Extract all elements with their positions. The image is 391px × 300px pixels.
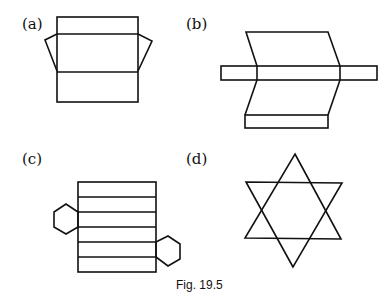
top-face <box>246 32 340 66</box>
figure-canvas: (a) (b) (c) (d) Fig. 19.5 <box>0 0 391 300</box>
panel-a: (a) <box>22 15 152 102</box>
left-flap <box>45 34 57 71</box>
panel-c: (c) <box>22 150 180 272</box>
panel-b: (b) <box>186 15 377 128</box>
right-flap <box>138 34 152 71</box>
panel-label-b: (b) <box>186 15 207 33</box>
right-hexagon <box>156 236 180 266</box>
panel-label-c: (c) <box>22 150 42 168</box>
bottom-face-right-edge <box>328 80 340 115</box>
figure-caption: Fig. 19.5 <box>176 278 223 292</box>
panel-label-d: (d) <box>186 150 207 168</box>
bottom-rect <box>245 115 328 128</box>
box-net-outline <box>57 17 138 102</box>
panel-d: (d) <box>186 150 342 267</box>
star-down-triangle <box>246 182 342 267</box>
panel-label-a: (a) <box>22 15 43 33</box>
left-hexagon <box>54 204 78 234</box>
horizontal-strip <box>221 66 377 80</box>
bottom-face-left-edge <box>245 80 257 115</box>
star-up-triangle <box>245 154 341 239</box>
